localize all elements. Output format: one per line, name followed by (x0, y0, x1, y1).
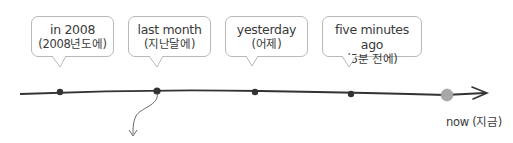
now-dot (441, 89, 453, 101)
curved-arrow-icon (133, 93, 157, 134)
event-label-en: five minutes ago (323, 22, 421, 52)
event-label-ko: (5분 전에) (323, 52, 421, 67)
event-bubble-2008: in 2008 (2008년도에) (31, 16, 114, 57)
event-label-en: last month (129, 22, 210, 37)
event-bubble-yesterday: yesterday (어제) (225, 16, 308, 57)
event-label-en: yesterday (226, 22, 307, 37)
event-dot-five-minutes (348, 91, 354, 97)
event-dot-2008 (57, 89, 63, 95)
event-label-ko: (2008년도에) (32, 37, 113, 52)
now-label: now (지금) (446, 113, 502, 129)
event-label-ko: (어제) (226, 37, 307, 52)
event-label-en: in 2008 (32, 22, 113, 37)
event-label-ko: (지난달에) (129, 37, 210, 52)
event-dot-yesterday (252, 89, 258, 95)
event-bubble-last-month: last month (지난달에) (128, 16, 211, 57)
event-bubble-five-minutes: five minutes ago (5분 전에) (322, 16, 422, 57)
